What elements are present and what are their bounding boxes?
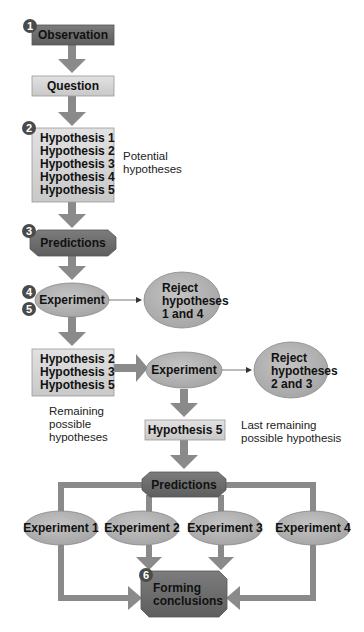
step-badge-5: 5: [22, 302, 36, 316]
conclusions-node: Forming conclusions: [141, 571, 227, 617]
svg-text:Reject: Reject: [271, 351, 307, 365]
predictions-node: Predictions: [30, 230, 116, 256]
hypothesis-item: Hypothesis 3: [40, 157, 115, 171]
step-badge-3: 3: [22, 224, 36, 238]
experiment-2b-node: Experiment 2: [104, 511, 180, 545]
svg-text:possible: possible: [49, 418, 91, 430]
last-hypothesis-node: Hypothesis 5: [145, 420, 225, 440]
reject-1-and-4-node: Reject hypotheses 1 and 4: [144, 272, 229, 328]
predictions-label: Predictions: [151, 478, 217, 492]
svg-text:possible hypothesis: possible hypothesis: [241, 432, 342, 444]
hypothesis-item: Hypothesis 3: [40, 365, 115, 379]
experiment-1-node: Experiment 1: [23, 511, 99, 545]
remaining-hypotheses-node: Hypothesis 2 Hypothesis 3 Hypothesis 5: [32, 349, 115, 396]
svg-text:3: 3: [26, 225, 32, 237]
observation-node: Observation: [32, 25, 114, 45]
svg-text:Forming: Forming: [153, 581, 201, 595]
experiment-label: Experiment: [39, 293, 104, 307]
hypothesis-item: Hypothesis 2: [40, 352, 115, 366]
question-label: Question: [47, 79, 99, 93]
svg-text:2 and 3: 2 and 3: [271, 377, 313, 391]
experiment-2-node: Experiment: [146, 352, 222, 388]
svg-text:4: 4: [26, 286, 33, 298]
last-hypothesis-note: Last remaining possible hypothesis: [241, 419, 342, 444]
step-badge-2: 2: [22, 121, 36, 135]
svg-text:6: 6: [143, 569, 149, 581]
flowchart: Observation 1 Question Hypothesis 1 Hypo…: [0, 0, 364, 632]
hypotheses-list-node: Hypothesis 1 Hypothesis 2 Hypothesis 3 H…: [32, 128, 115, 202]
experiment-3-node: Experiment 3: [187, 511, 263, 545]
reject-2-and-3-node: Reject hypotheses 2 and 3: [254, 342, 338, 398]
observation-label: Observation: [38, 28, 108, 42]
step-badge-4: 4: [22, 285, 36, 299]
svg-text:Remaining: Remaining: [49, 405, 104, 417]
svg-text:hypotheses: hypotheses: [49, 431, 108, 443]
step-badge-1: 1: [23, 19, 37, 33]
hypothesis-item: Hypothesis 5: [40, 183, 115, 197]
hypothesis-item: Hypothesis 5: [40, 378, 115, 392]
svg-text:1: 1: [27, 20, 33, 32]
predictions-label: Predictions: [40, 236, 106, 250]
svg-text:Experiment 3: Experiment 3: [187, 521, 263, 535]
predictions-2-node: Predictions: [142, 472, 226, 497]
svg-text:conclusions: conclusions: [153, 594, 223, 608]
svg-text:2: 2: [26, 122, 32, 134]
svg-text:Reject: Reject: [162, 281, 198, 295]
svg-text:Hypothesis 5: Hypothesis 5: [148, 423, 223, 437]
experiment-4-node: Experiment 4: [275, 511, 351, 545]
question-node: Question: [32, 76, 114, 96]
experiment-node: Experiment: [35, 283, 109, 317]
svg-text:5: 5: [26, 303, 32, 315]
svg-text:Last remaining: Last remaining: [241, 419, 316, 431]
svg-text:hypotheses: hypotheses: [162, 294, 229, 308]
experiment-label: Experiment: [151, 363, 216, 377]
hypothesis-item: Hypothesis 4: [40, 170, 115, 184]
svg-text:1 and 4: 1 and 4: [162, 307, 204, 321]
svg-text:Potential: Potential: [123, 150, 168, 162]
potential-hypotheses-note: Potential hypotheses: [123, 150, 182, 175]
hypothesis-item: Hypothesis 2: [40, 144, 115, 158]
svg-text:Experiment 2: Experiment 2: [104, 521, 180, 535]
svg-text:Experiment 1: Experiment 1: [23, 521, 99, 535]
step-badge-6: 6: [139, 568, 153, 582]
svg-text:Experiment 4: Experiment 4: [275, 521, 351, 535]
remaining-hypotheses-note: Remaining possible hypotheses: [49, 405, 108, 443]
hypothesis-item: Hypothesis 1: [40, 131, 115, 145]
svg-text:hypotheses: hypotheses: [123, 163, 182, 175]
svg-text:hypotheses: hypotheses: [271, 364, 338, 378]
